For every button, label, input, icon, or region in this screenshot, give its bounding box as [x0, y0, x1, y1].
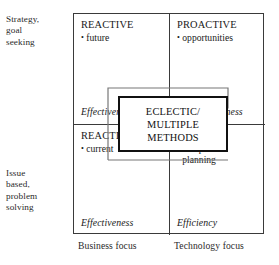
central-box-line-1: ECLECTIC/	[146, 105, 200, 118]
row-label-issue-based-problem-solving: Issue based, problem solving	[6, 168, 68, 214]
bullet-icon: •	[81, 32, 84, 44]
row-label-strategy-goal-seeking: Strategy, goal seeking	[6, 14, 68, 48]
quadrant-top-right-bullet-text: opportunities	[182, 32, 233, 44]
quadrant-top-left-bullet: • future	[81, 32, 169, 44]
quadrant-top-left-title: REACTIVE	[81, 19, 169, 31]
quadrant-top-right-title: PROACTIVE	[177, 19, 265, 31]
quadrant-top-left-bullet-text: future	[86, 32, 109, 44]
quadrant-top-right-bullet: • opportunities	[177, 32, 265, 44]
quadrant-bottom-left-outcome: Effectiveness	[81, 217, 133, 228]
quadrant-bottom-left-bullet-text: current	[86, 143, 113, 155]
column-label-business-focus: Business focus	[78, 240, 137, 252]
central-box-line-3: METHODS	[147, 131, 199, 144]
quadrant-bottom-right-outcome: Efficiency	[177, 217, 217, 228]
central-box-line-2: MULTIPLE	[147, 118, 199, 131]
bullet-icon: •	[81, 143, 84, 155]
central-box-eclectic-multiple-methods: ECLECTIC/ MULTIPLE METHODS	[118, 96, 228, 152]
bullet-icon: •	[177, 32, 180, 44]
column-label-technology-focus: Technology focus	[174, 240, 244, 252]
diagram-canvas: Strategy, goal seeking Issue based, prob…	[0, 0, 279, 265]
